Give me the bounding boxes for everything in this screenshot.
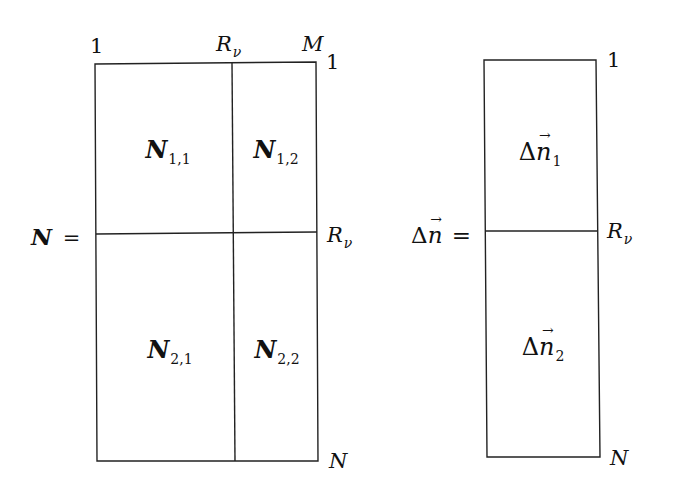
block-dn-1: Δn1	[519, 140, 562, 164]
block-n-1-2: N1,2	[253, 138, 298, 162]
block-n-2-1: N2,1	[147, 338, 192, 362]
vector-row-label-first: 1	[607, 50, 620, 71]
row-label-split: Rν	[327, 225, 352, 246]
col-label-split: Rν	[216, 34, 241, 55]
block-dn-2: Δn2	[522, 335, 565, 359]
matrix-n-column-divider	[232, 63, 235, 461]
col-label-last: M	[302, 34, 324, 55]
col-label-first: 1	[90, 36, 103, 57]
vector-dn-frame	[484, 60, 600, 457]
vector-dn-lhs: Δn =	[411, 224, 471, 247]
vector-row-label-split: Rν	[607, 221, 632, 242]
matrix-n-lhs: N =	[31, 225, 80, 249]
block-n-2-2: N2,2	[254, 338, 299, 362]
matrix-n-frame	[95, 62, 318, 461]
vector-dn-outline	[484, 60, 600, 457]
block-n-1-1: N1,1	[145, 138, 190, 162]
row-label-first: 1	[326, 52, 339, 73]
row-label-last: N	[329, 451, 347, 472]
matrix-n-outline	[95, 62, 318, 461]
matrix-n-row-divider	[96, 232, 317, 234]
vector-row-label-last: N	[610, 448, 628, 469]
